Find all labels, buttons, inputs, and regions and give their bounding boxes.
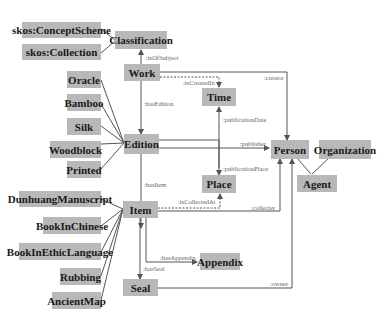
edge-label-has-appendix: :hasAppendix <box>160 255 196 262</box>
node-agent: Agent <box>297 175 337 192</box>
edge-label-is-of-subject: :isOfSubject <box>146 55 179 62</box>
edge-label-has-seal: :hasSeal <box>143 266 165 273</box>
node-oracle: Oracle <box>67 71 101 88</box>
edge-label-is-created-in: :isCreatedIn <box>183 80 215 87</box>
node-classification: Classification <box>115 31 167 49</box>
node-bamboo: Bamboo <box>67 94 101 111</box>
edge-label-publisher: :publisher <box>240 141 266 148</box>
edge-label-is-collected-at: :isCollectedAt <box>178 199 216 206</box>
edge-label-owner: :owner <box>270 281 288 288</box>
node-book-in-ethic-language: BookInEthicLanguage <box>19 243 101 260</box>
edge-label-publication-place: :publicationPlace <box>223 166 268 173</box>
node-edition: Edition <box>124 134 159 154</box>
node-appendix: Appendix <box>200 253 240 270</box>
node-printed: Printed <box>67 161 101 178</box>
node-place: Place <box>202 175 236 193</box>
node-work: Work <box>124 64 160 81</box>
node-item: Item <box>123 201 158 218</box>
node-woodblock: Woodblock <box>50 141 101 158</box>
node-person: Person <box>271 140 309 159</box>
node-dunhuang-manuscript: DunhuangManuscript <box>19 191 101 207</box>
edge-label-has-item: :hasItem <box>144 182 166 189</box>
node-skos-collection: skos:Collection <box>22 44 101 60</box>
node-seal: Seal <box>123 279 158 296</box>
edge-label-collecter: :collecter <box>251 205 275 212</box>
node-rubbing: Rubbing <box>60 268 101 285</box>
edge-label-has-edition: :hasEdition <box>144 101 174 108</box>
edge-label-creator: :creator <box>264 75 284 82</box>
node-skos-concept-scheme: skos:ConceptScheme <box>22 22 101 38</box>
node-time: Time <box>202 88 236 106</box>
node-organization: Organization <box>319 140 371 159</box>
node-silk: Silk <box>67 118 101 135</box>
edge-label-publication-date: :publicationDate <box>223 117 266 124</box>
node-ancient-map: AncientMap <box>52 292 101 309</box>
node-book-in-chinese: BookInChinese <box>43 217 101 234</box>
